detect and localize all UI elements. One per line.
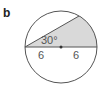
center-point	[60, 46, 63, 49]
left-radius-label: 6	[38, 49, 44, 61]
circle-diagram: 30° 6 6	[0, 0, 106, 93]
right-radius-label: 6	[73, 49, 79, 61]
angle-label: 30°	[41, 34, 58, 46]
